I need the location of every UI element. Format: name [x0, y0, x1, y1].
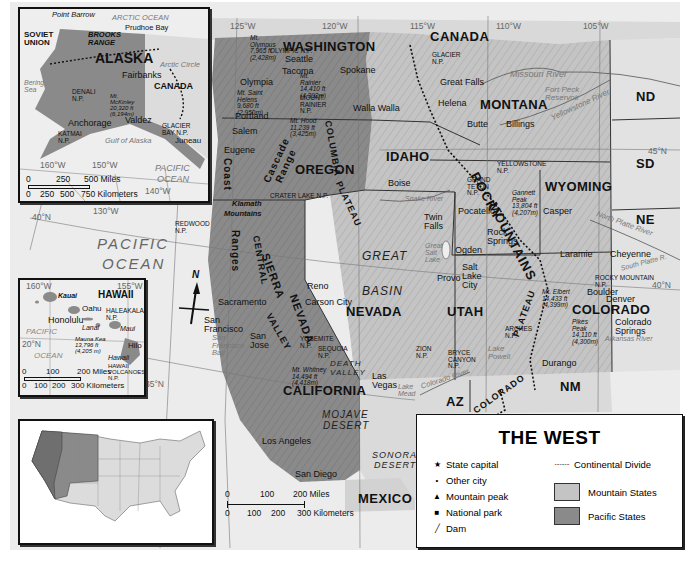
- peak-st-helens: Mt. Saint Helens 9,680 ft (2,950m): [237, 90, 275, 116]
- city-san-jose: San Jose: [250, 332, 274, 350]
- city-twin-falls: Twin Falls: [424, 213, 454, 231]
- north-arrow-icon: [175, 270, 215, 325]
- city-butte: Butte: [467, 120, 488, 129]
- legend-item-mountain-peak: ▲ Mountain peak: [433, 491, 508, 502]
- city-laramie: Laramie: [560, 250, 593, 259]
- city-sacramento: Sacramento: [218, 298, 267, 307]
- park-redwood: REDWOOD N.P.: [175, 221, 210, 234]
- mexico-label: MEXICO: [358, 492, 412, 505]
- west-map: CANADA MEXICO PACIFIC OCEAN WASHINGTON O…: [0, 0, 692, 563]
- grid-35n: 35°N: [145, 380, 164, 389]
- city-boise: Boise: [388, 179, 411, 188]
- water-great-salt-lake: Great Salt Lake: [425, 242, 447, 263]
- city-reno: Reno: [307, 282, 329, 291]
- city-seattle: Seattle: [285, 55, 313, 64]
- grid-125w: 125°W: [230, 22, 256, 31]
- state-idaho: IDAHO: [386, 150, 429, 163]
- alaska-inset: Point Barrow Prudhoe Bay ARCTIC OCEAN SO…: [18, 7, 210, 203]
- alaska-title: ALASKA: [95, 51, 153, 65]
- hawaii-inset: 160°W 155°W HAWAII Kauai Oahu Honolulu H…: [18, 278, 146, 397]
- park-yellowstone: YELLOWSTONE N.P.: [497, 161, 557, 174]
- city-salem: Salem: [232, 127, 258, 136]
- water-missouri: Missouri River: [510, 70, 567, 79]
- compass: N: [175, 270, 215, 325]
- mountain-states-swatch: [554, 483, 580, 501]
- water-snake-river: Snake River: [405, 195, 443, 202]
- city-casper: Casper: [543, 207, 572, 216]
- park-bryce-canyon: BRYCE CANYON N.P.: [448, 350, 478, 370]
- grid-115w: 115°W: [410, 22, 435, 31]
- dotted-line-icon: ·········: [554, 460, 569, 469]
- dam-icon: ╱: [433, 524, 441, 533]
- city-olympia: Olympia: [240, 78, 273, 87]
- ocean-label-ocean: OCEAN: [102, 256, 165, 271]
- hawaii-scale-bar: 0 100 200 Miles 0 100 200 300 Kilometers: [22, 368, 142, 394]
- peak-gannett: Gannett Peak 13,804 ft (4,207m): [512, 190, 544, 216]
- grid-40n: 40°N: [652, 281, 671, 290]
- state-sd: SD: [636, 157, 655, 170]
- map-legend: THE WEST ★ State capital • Other city ▲ …: [416, 414, 683, 548]
- city-ogden: Ogden: [455, 246, 482, 255]
- us-locator-inset: [18, 419, 214, 545]
- city-provo: Provo: [437, 274, 461, 283]
- city-los-angeles: Los Angeles: [262, 437, 311, 446]
- region-coast: Coast: [222, 158, 232, 191]
- grid-120w: 120°W: [322, 22, 348, 31]
- legend-item-other-city: • Other city: [433, 475, 487, 486]
- grid-130w: 130°W: [93, 207, 119, 216]
- grid-105w: 105°W: [583, 22, 609, 31]
- peak-elbert: Mt. Elbert 14,433 ft (4,399m): [542, 289, 572, 309]
- city-helena: Helena: [438, 99, 467, 108]
- region-great: GREAT: [362, 250, 407, 262]
- park-rocky-mountain: ROCKY MOUNTAIN N.P.: [595, 275, 655, 288]
- city-colorado-springs: Colorado Springs: [615, 318, 660, 336]
- legend-item-national-park: ■ National park: [433, 507, 502, 518]
- region-death: DEATH: [330, 360, 362, 368]
- state-colorado: COLORADO: [572, 303, 650, 316]
- state-nevada: NEVADA: [346, 305, 402, 318]
- water-arkansas-river: Arkansas River: [605, 335, 652, 342]
- region-mojave-desert: DESERT: [323, 421, 369, 431]
- peak-rainier: Mt. Rainier 14,410 ft (4,392m): [300, 73, 330, 99]
- pacific-states-swatch: [554, 507, 580, 525]
- park-zion: ZION N.P.: [416, 346, 434, 359]
- state-nm: NM: [560, 380, 581, 393]
- dot-icon: •: [433, 476, 441, 485]
- park-glacier: GLACIER N.P.: [432, 52, 467, 65]
- region-basin: BASIN: [362, 285, 403, 297]
- grid-45n: 45°N: [648, 147, 667, 156]
- city-great-falls: Great Falls: [440, 78, 484, 87]
- region-klamath: Klamath: [232, 200, 262, 208]
- region-death-valley: VALLEY: [330, 369, 366, 377]
- region-ranges: Ranges: [230, 230, 240, 272]
- peak-whitney: Mt. Whitney 14,494 ft (4,418m): [292, 367, 327, 387]
- canada-label: CANADA: [430, 30, 489, 43]
- state-oregon: OREGON: [295, 163, 355, 176]
- triangle-icon: ▲: [433, 492, 441, 501]
- main-scale-bar: 0 100 200 Miles 0 100 200 300 Kilometers: [225, 490, 365, 520]
- legend-item-dam: ╱ Dam: [433, 523, 466, 534]
- city-walla-walla: Walla Walla: [353, 104, 400, 113]
- peak-olympus: Mt. Olympus 7,965 ft (2,428m): [250, 35, 286, 61]
- legend-item-continental-divide: ········· Continental Divide: [554, 459, 651, 470]
- water-lake-powell: Lake Powell: [488, 345, 512, 360]
- park-sequoia: SEQUOIA N.P.: [318, 346, 353, 359]
- hawaii-title: HAWAII: [98, 290, 134, 300]
- grid-40n-west: 40°N: [32, 213, 51, 222]
- state-utah: UTAH: [447, 305, 483, 318]
- peak-pikes: Pikes Peak 14,110 ft (4,300m): [572, 319, 602, 345]
- legend-item-state-capital: ★ State capital: [433, 459, 498, 470]
- city-salt-lake-city: Salt Lake City: [462, 263, 492, 290]
- city-las-vegas: Las Vegas: [372, 372, 400, 390]
- us-locator-map: [20, 421, 212, 543]
- legend-item-mountain-states: Mountain States: [554, 483, 657, 501]
- city-spokane: Spokane: [340, 66, 376, 75]
- square-icon: ■: [433, 508, 441, 517]
- city-billings: Billings: [506, 120, 535, 129]
- water-sf-bay: San Francisco Bay: [212, 334, 240, 357]
- water-lake-mead: Lake Mead: [398, 383, 418, 397]
- state-az: AZ: [446, 395, 464, 408]
- state-nd: ND: [636, 90, 655, 103]
- region-klamath-mountains: Mountains: [224, 210, 262, 218]
- city-san-diego: San Diego: [295, 470, 337, 479]
